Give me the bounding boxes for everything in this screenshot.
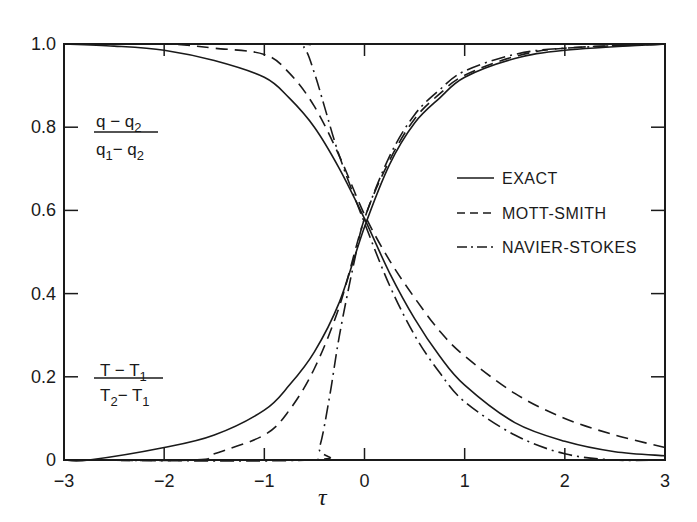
x-tick-label: 1	[460, 471, 470, 491]
legend-label-mott-smith: MOTT-SMITH	[502, 205, 607, 222]
y-tick-label: 0.6	[31, 200, 56, 220]
y-tick-label: 0.4	[31, 284, 56, 304]
x-axis-ticks: −3−2−10123	[54, 44, 670, 491]
svg-text:T2− T1: T2− T1	[100, 386, 150, 409]
x-tick-label: 3	[660, 471, 670, 491]
x-tick-label: −3	[54, 471, 75, 491]
temperature-denominator-b: − T	[118, 386, 143, 405]
density-ratio-label: q − q2 q1− q2	[94, 112, 158, 163]
temperature-ratio-label: T − T1 T2− T1	[94, 361, 163, 409]
x-tick-label: −1	[254, 471, 275, 491]
legend-label-navier-stokes: NAVIER-STOKES	[502, 239, 637, 256]
y-tick-label: 1.0	[31, 34, 56, 54]
svg-text:q1− q2: q1− q2	[96, 140, 144, 163]
x-tick-label: 0	[359, 471, 369, 491]
x-tick-label: −2	[154, 471, 175, 491]
y-tick-label: 0.2	[31, 367, 56, 387]
x-tick-label: 2	[560, 471, 570, 491]
temperature-denominator-a: T	[100, 386, 110, 405]
svg-text:T − T1: T − T1	[100, 361, 147, 384]
density-denominator-b: − q	[113, 140, 137, 159]
density-numerator: q − q	[96, 112, 134, 131]
chart: −3−2−10123 00.20.40.60.81.0 q − q2 q1− q…	[0, 0, 697, 522]
x-axis-label: τ	[318, 484, 328, 510]
density-denominator-a: q	[96, 140, 105, 159]
legend: EXACT MOTT-SMITH NAVIER-STOKES	[457, 170, 637, 256]
y-tick-label: 0	[46, 450, 56, 470]
y-tick-label: 0.8	[31, 117, 56, 137]
temperature-numerator: T − T	[100, 361, 140, 380]
legend-label-exact: EXACT	[502, 170, 558, 187]
